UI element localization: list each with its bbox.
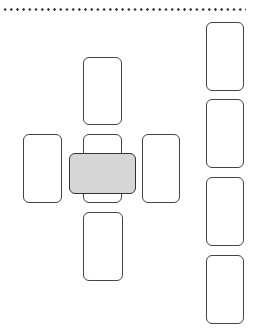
card-cross-bottom — [83, 212, 123, 281]
card-staff-1 — [206, 22, 244, 91]
dotted-separator — [2, 8, 246, 11]
card-cross-top — [83, 57, 122, 125]
card-cross-left — [23, 134, 62, 203]
card-cross-right — [142, 134, 180, 203]
card-staff-3 — [206, 177, 244, 246]
card-staff-2 — [206, 99, 244, 168]
card-staff-4 — [206, 255, 244, 324]
card-crossing-horizontal — [69, 153, 136, 194]
